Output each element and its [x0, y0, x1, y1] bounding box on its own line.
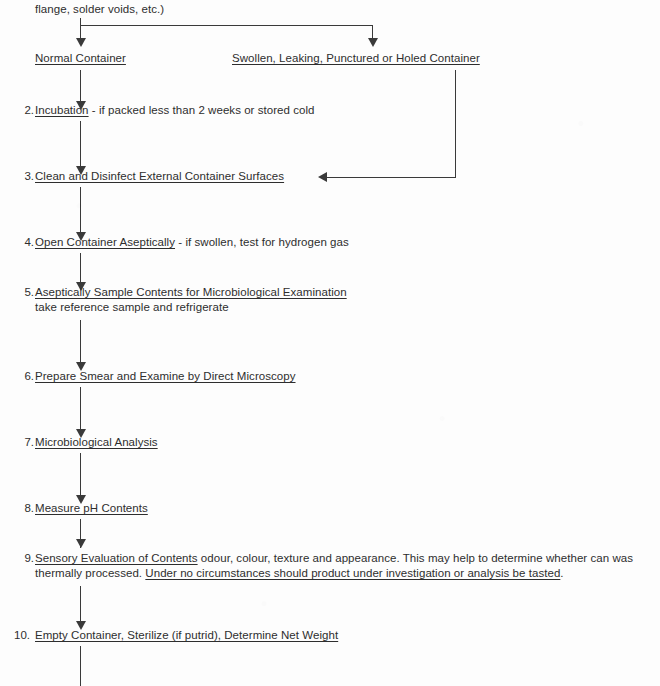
step-text-8: Measure pH Contents [35, 501, 148, 516]
branch-label-normal-container: Normal Container [35, 51, 126, 66]
document-page: flange, solder voids, etc.) Normal Conta… [0, 0, 660, 686]
flow-line-branch-to-step2 [80, 70, 81, 102]
branch-label-damaged-container: Swollen, Leaking, Punctured or Holed Con… [232, 51, 480, 66]
flow-line-step4-to-step5 [80, 253, 81, 283]
flow-line-step9-to-step10 [80, 586, 81, 622]
step-warning-tail-9: . [560, 567, 563, 579]
step-number-8: 8. [8, 501, 34, 516]
continuation-text: flange, solder voids, etc.) [35, 2, 164, 17]
flow-line-step2-to-step3 [80, 121, 81, 167]
step-number-6: 6. [8, 369, 34, 384]
step-detail-4: - if swollen, test for hydrogen gas [175, 236, 349, 248]
step-text-3: Clean and Disinfect External Container S… [35, 169, 284, 184]
flow-line-step7-to-step8 [80, 453, 81, 496]
step-number-2: 2. [8, 103, 34, 118]
step-number-10: 10. [4, 628, 30, 643]
step-heading-10: Empty Container, Sterilize (if putrid), … [35, 629, 338, 641]
step-number-9: 9. [8, 551, 34, 566]
step-heading-9: Sensory Evaluation of Contents [35, 552, 198, 564]
branch-right-arrowhead [368, 38, 378, 47]
step-detail-2: - if packed less than 2 weeks or stored … [89, 104, 315, 116]
branch-left-label-text: Normal Container [35, 52, 126, 64]
step-text-4: Open Container Aseptically - if swollen,… [35, 235, 349, 250]
step-heading-5: Aseptically Sample Contents for Microbio… [35, 286, 347, 298]
branch-right-label-text: Swollen, Leaking, Punctured or Holed Con… [232, 52, 480, 64]
return-path-arrowhead [318, 172, 327, 182]
step-warning-9: Under no circumstances should product un… [145, 567, 560, 579]
return-path-horizontal-line [327, 177, 456, 178]
step-heading-6: Prepare Smear and Examine by Direct Micr… [35, 370, 296, 382]
step-number-7: 7. [8, 435, 34, 450]
step-text-2: Incubation - if packed less than 2 weeks… [35, 103, 315, 118]
branch-right-drop-line [372, 25, 373, 39]
flow-arrowhead-step9 [76, 539, 86, 548]
flow-line-step10-continuation [80, 646, 81, 686]
step-heading-3: Clean and Disinfect External Container S… [35, 170, 284, 182]
step-number-3: 3. [8, 169, 34, 184]
flow-line-step6-to-step7 [80, 387, 81, 430]
step-text-6: Prepare Smear and Examine by Direct Micr… [35, 369, 296, 384]
return-path-vertical-line [455, 70, 456, 177]
step-text-9: Sensory Evaluation of Contents odour, co… [35, 551, 657, 581]
step-heading-2: Incubation [35, 104, 89, 116]
step-heading-8: Measure pH Contents [35, 502, 148, 514]
branch-horizontal-line [80, 25, 373, 26]
flow-line-step3-to-step4 [80, 187, 81, 233]
flow-line-step5-to-step6 [80, 320, 81, 363]
step-text-5: Aseptically Sample Contents for Microbio… [35, 285, 347, 315]
branch-left-drop-line [80, 25, 81, 39]
step-number-5: 5. [8, 285, 34, 300]
step-text-10: Empty Container, Sterilize (if putrid), … [35, 628, 338, 643]
branch-left-arrowhead [76, 38, 86, 47]
step-heading-7: Microbiological Analysis [35, 436, 158, 448]
step-subline-5: take reference sample and refrigerate [35, 300, 347, 315]
step-number-4: 4. [8, 235, 34, 250]
step-heading-4: Open Container Aseptically [35, 236, 175, 248]
step-text-7: Microbiological Analysis [35, 435, 158, 450]
